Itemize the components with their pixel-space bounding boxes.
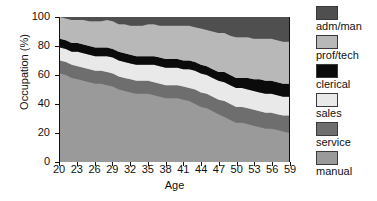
x-axis-tick-mark xyxy=(219,162,220,166)
legend-item-manual: manual xyxy=(316,151,377,177)
x-axis-tick-mark xyxy=(237,162,238,166)
legend-swatch-icon xyxy=(316,35,338,49)
x-axis-tick-mark xyxy=(166,162,167,166)
x-axis-tick-mark xyxy=(201,162,202,166)
x-axis-tick-mark xyxy=(95,162,96,166)
legend-label: prof/tech xyxy=(316,49,377,61)
stacked-area-series xyxy=(60,17,289,162)
x-axis-tick-mark xyxy=(254,162,255,166)
x-axis-tick-mark xyxy=(77,162,78,166)
legend-swatch-icon xyxy=(316,122,338,136)
y-axis-tick-label: 100 xyxy=(22,11,50,22)
legend-label: service xyxy=(316,136,377,148)
legend-item-service: service xyxy=(316,122,377,148)
y-axis-tick-label: 0 xyxy=(22,156,50,167)
legend-label: manual xyxy=(316,165,377,177)
legend-swatch-icon xyxy=(316,6,338,20)
legend-label: clerical xyxy=(316,78,377,90)
legend: adm/manprof/techclericalsalesservicemanu… xyxy=(316,6,377,180)
x-axis-tick-mark xyxy=(112,162,113,166)
legend-swatch-icon xyxy=(316,151,338,165)
legend-item-prof-tech: prof/tech xyxy=(316,35,377,61)
chart-figure: Occupation (%) 020406080100 202326293235… xyxy=(0,0,377,201)
legend-label: adm/man xyxy=(316,20,377,32)
x-axis-tick-mark xyxy=(59,162,60,166)
legend-item-sales: sales xyxy=(316,93,377,119)
x-axis-title: Age xyxy=(59,179,290,191)
plot-area xyxy=(59,17,290,162)
x-axis-tick-mark xyxy=(272,162,273,166)
legend-swatch-icon xyxy=(316,93,338,107)
y-axis-tick-label: 20 xyxy=(22,127,50,138)
y-axis-tick-label: 80 xyxy=(22,40,50,51)
x-axis-tick-mark xyxy=(130,162,131,166)
y-axis-tick-label: 40 xyxy=(22,98,50,109)
y-axis-tick-label: 60 xyxy=(22,69,50,80)
x-axis-tick-mark xyxy=(290,162,291,166)
x-axis-tick-mark xyxy=(148,162,149,166)
x-axis-tick-mark xyxy=(183,162,184,166)
legend-item-adm-man: adm/man xyxy=(316,6,377,32)
legend-label: sales xyxy=(316,107,377,119)
legend-item-clerical: clerical xyxy=(316,64,377,90)
legend-swatch-icon xyxy=(316,64,338,78)
